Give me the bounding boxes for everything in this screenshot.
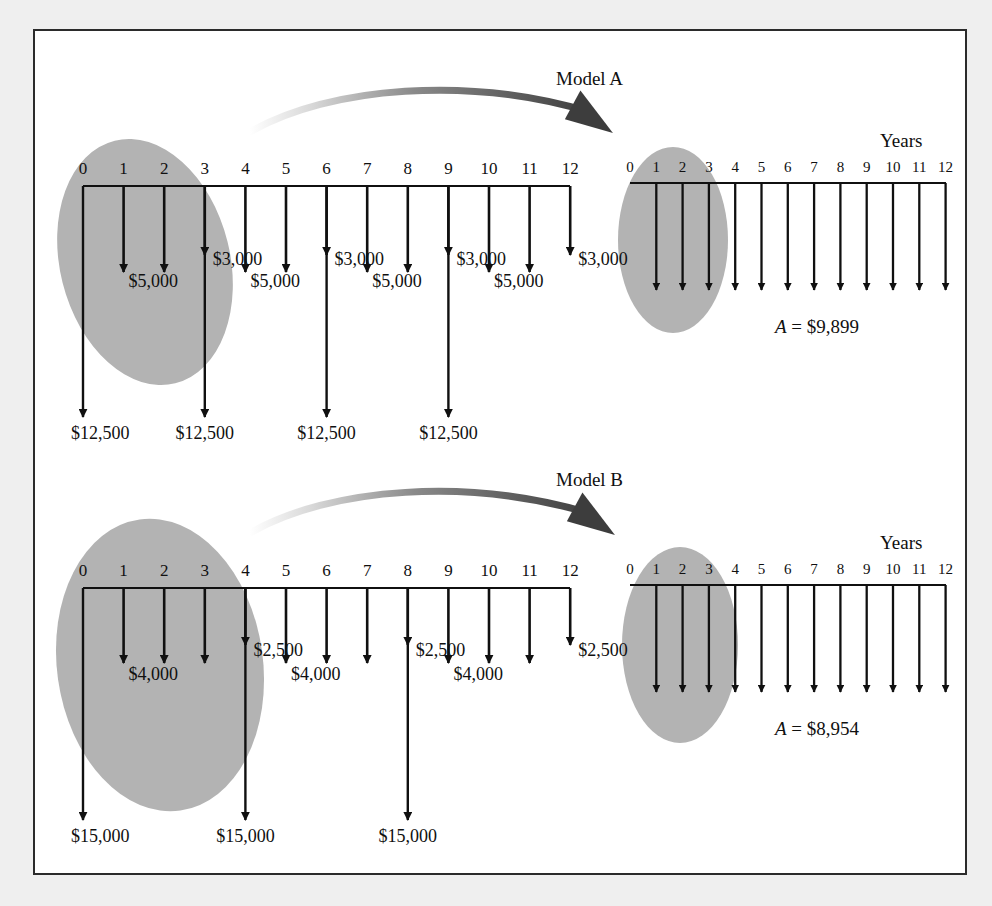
model-b-year-tick-10: 10 xyxy=(481,562,498,579)
model-a-label-short-y12: $3,000 xyxy=(578,250,628,268)
model-a-right-year-tick-5: 5 xyxy=(758,160,766,175)
model-a-right-year-tick-11: 11 xyxy=(912,160,926,175)
model-b-right-year-tick-0: 0 xyxy=(626,562,634,577)
model-b-right-year-tick-2: 2 xyxy=(679,562,687,577)
model-b-right-year-tick-12: 12 xyxy=(938,562,953,577)
model-a-label-medium-y10: $5,000 xyxy=(494,272,544,290)
model-a-label-short-y9: $3,000 xyxy=(456,250,506,268)
model-a-label-short-y6: $3,000 xyxy=(335,250,385,268)
model-a-transfer-arrowhead xyxy=(565,88,622,133)
model-a-right-year-tick-0: 0 xyxy=(626,160,634,175)
model-b-label-short-y8: $2,500 xyxy=(416,641,466,659)
model-a-right-year-tick-2: 2 xyxy=(679,160,687,175)
model-b-year-tick-6: 6 xyxy=(322,562,331,579)
model-b-right-year-tick-6: 6 xyxy=(784,562,792,577)
model-a-transfer-arrow xyxy=(250,90,590,132)
model-b-year-tick-0: 0 xyxy=(79,562,88,579)
model-a-year-tick-3: 3 xyxy=(201,160,210,177)
model-b-right-year-tick-5: 5 xyxy=(758,562,766,577)
model-b-right-year-tick-10: 10 xyxy=(886,562,901,577)
model-a-year-tick-4: 4 xyxy=(241,160,250,177)
model-b-label-short-y4: $2,500 xyxy=(253,641,303,659)
model-b-label-long-y0: $15,000 xyxy=(71,827,130,845)
model-a-result-value: $9,899 xyxy=(807,316,859,337)
model-b-label-long-y8: $15,000 xyxy=(379,827,438,845)
model-a-year-tick-5: 5 xyxy=(282,160,291,177)
model-b-result-value: $8,954 xyxy=(807,718,859,739)
model-a-year-tick-12: 12 xyxy=(562,160,579,177)
model-a-year-tick-10: 10 xyxy=(481,160,498,177)
model-b-label-medium-y9: $4,000 xyxy=(453,665,503,683)
model-a-label-long-y9: $12,500 xyxy=(419,424,478,442)
model-b-year-tick-11: 11 xyxy=(521,562,537,579)
model-a-year-tick-6: 6 xyxy=(322,160,331,177)
model-a-label-medium-y7: $5,000 xyxy=(372,272,422,290)
model-b-year-tick-9: 9 xyxy=(444,562,453,579)
model-b-group xyxy=(38,490,946,824)
model-a-year-tick-2: 2 xyxy=(160,160,169,177)
model-a-label-long-y6: $12,500 xyxy=(297,424,356,442)
model-b-right-year-tick-11: 11 xyxy=(912,562,926,577)
model-a-title: Model A xyxy=(556,69,623,88)
model-a-right-year-tick-7: 7 xyxy=(810,160,818,175)
model-a-right-year-tick-1: 1 xyxy=(653,160,661,175)
model-b-right-year-tick-1: 1 xyxy=(653,562,661,577)
model-b-year-tick-7: 7 xyxy=(363,562,372,579)
figure-root: Model A Years A = $9,899 Model B Years A… xyxy=(0,0,992,906)
model-a-right-year-tick-6: 6 xyxy=(784,160,792,175)
model-b-transfer-arrowhead xyxy=(567,490,624,535)
model-a-year-tick-1: 1 xyxy=(119,160,128,177)
model-a-year-tick-7: 7 xyxy=(363,160,372,177)
model-b-transfer-arrow xyxy=(250,491,592,533)
model-a-label-long-y0: $12,500 xyxy=(71,424,130,442)
model-a-right-year-tick-8: 8 xyxy=(837,160,845,175)
model-b-year-tick-5: 5 xyxy=(282,562,291,579)
model-b-label-short-y12: $2,500 xyxy=(578,641,628,659)
model-a-year-tick-0: 0 xyxy=(79,160,88,177)
model-a-label-long-y3: $12,500 xyxy=(176,424,235,442)
cash-flow-diagram-svg xyxy=(0,0,992,906)
model-b-year-tick-8: 8 xyxy=(404,562,413,579)
model-a-year-tick-9: 9 xyxy=(444,160,453,177)
model-b-year-tick-3: 3 xyxy=(201,562,210,579)
model-b-result-equals: = xyxy=(791,718,802,739)
model-a-right-year-tick-4: 4 xyxy=(731,160,739,175)
model-b-right-year-tick-4: 4 xyxy=(731,562,739,577)
model-b-title: Model B xyxy=(556,470,623,489)
model-a-right-year-tick-10: 10 xyxy=(886,160,901,175)
model-a-result-label: A = $9,899 xyxy=(775,317,859,336)
model-b-result-symbol: A xyxy=(775,718,787,739)
model-a-result-equals: = xyxy=(791,316,802,337)
model-b-year-tick-4: 4 xyxy=(241,562,250,579)
model-b-label-medium-y1: $4,000 xyxy=(129,665,179,683)
model-a-year-tick-8: 8 xyxy=(404,160,413,177)
model-b-label-long-y4: $15,000 xyxy=(216,827,275,845)
model-b-right-year-tick-9: 9 xyxy=(863,562,871,577)
model-a-label-medium-y4: $5,000 xyxy=(250,272,300,290)
model-a-right-year-tick-3: 3 xyxy=(705,160,713,175)
model-a-result-symbol: A xyxy=(775,316,787,337)
model-a-years-label: Years xyxy=(880,131,922,150)
model-a-year-tick-11: 11 xyxy=(521,160,537,177)
model-b-years-label: Years xyxy=(880,533,922,552)
model-b-right-year-tick-3: 3 xyxy=(705,562,713,577)
model-b-year-tick-1: 1 xyxy=(119,562,128,579)
model-a-right-year-tick-12: 12 xyxy=(938,160,953,175)
model-b-year-tick-2: 2 xyxy=(160,562,169,579)
model-b-label-medium-y5: $4,000 xyxy=(291,665,341,683)
model-b-right-year-tick-7: 7 xyxy=(810,562,818,577)
model-b-result-label: A = $8,954 xyxy=(775,719,859,738)
model-b-year-tick-12: 12 xyxy=(562,562,579,579)
model-a-label-medium-y1: $5,000 xyxy=(129,272,179,290)
model-b-right-year-tick-8: 8 xyxy=(837,562,845,577)
model-a-right-year-tick-9: 9 xyxy=(863,160,871,175)
model-a-label-short-y3: $3,000 xyxy=(213,250,263,268)
